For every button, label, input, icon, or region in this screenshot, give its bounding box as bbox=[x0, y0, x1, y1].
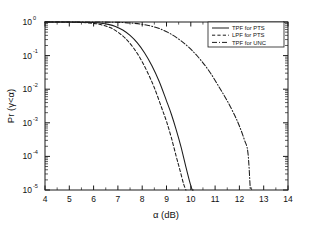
x-tick-label: 5 bbox=[67, 194, 72, 204]
y-tick-label-exponent: -5 bbox=[33, 183, 38, 189]
curve-lpf-for-pts bbox=[45, 22, 186, 190]
y-tick-label-exponent: -2 bbox=[33, 82, 38, 88]
x-axis-tick-labels: 4567891011121314 bbox=[43, 194, 293, 204]
legend-label: LPF for PTS bbox=[232, 32, 264, 38]
x-tick-label: 11 bbox=[211, 194, 220, 204]
y-tick-label-base: 10 bbox=[23, 118, 33, 128]
y-tick-label-exponent: -4 bbox=[33, 149, 38, 155]
x-tick-label: 13 bbox=[259, 194, 269, 204]
y-tick-label-base: 10 bbox=[23, 17, 33, 27]
legend-label: TPF for UNC bbox=[232, 40, 267, 46]
x-axis-label: α (dB) bbox=[153, 209, 179, 220]
x-tick-label: 10 bbox=[186, 194, 196, 204]
x-tick-label: 8 bbox=[140, 194, 145, 204]
x-tick-label: 7 bbox=[116, 194, 121, 204]
x-tick-label: 4 bbox=[43, 194, 48, 204]
y-tick-label-exponent: 0 bbox=[33, 15, 36, 21]
chart-legend: TPF for PTSLPF for PTSTPF for UNC bbox=[208, 22, 284, 47]
legend-label: TPF for PTS bbox=[232, 25, 265, 31]
y-tick-label-exponent: -3 bbox=[33, 116, 38, 122]
x-tick-label: 12 bbox=[235, 194, 245, 204]
ccdf-line-chart: 4567891011121314 10010-110-210-310-410-5… bbox=[0, 0, 309, 233]
y-tick-label-base: 10 bbox=[23, 51, 33, 61]
x-tick-label: 9 bbox=[164, 194, 169, 204]
y-tick-label-base: 10 bbox=[23, 151, 33, 161]
curve-tpf-for-pts bbox=[45, 22, 193, 190]
y-axis-tick-labels: 10010-110-210-310-410-5 bbox=[23, 15, 38, 195]
y-tick-label-base: 10 bbox=[23, 185, 33, 195]
y-tick-label-base: 10 bbox=[23, 84, 33, 94]
x-tick-label: 14 bbox=[283, 194, 293, 204]
y-tick-label-exponent: -1 bbox=[33, 48, 38, 54]
x-tick-label: 6 bbox=[91, 194, 96, 204]
y-axis-label: Pr (γ<α) bbox=[5, 89, 16, 123]
chart-figure: 4567891011121314 10010-110-210-310-410-5… bbox=[0, 0, 309, 233]
